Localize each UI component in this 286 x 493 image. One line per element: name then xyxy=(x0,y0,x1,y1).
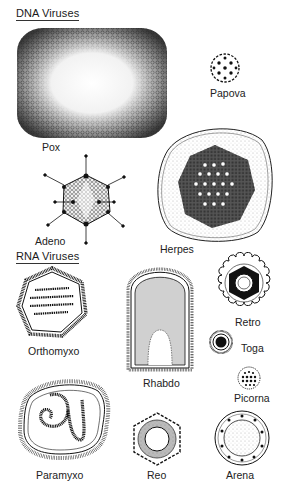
toga-label: Toga xyxy=(241,342,264,354)
herpes-label: Herpes xyxy=(160,243,194,255)
retro-virus-drawing xyxy=(218,252,270,305)
arena-virus-drawing xyxy=(215,411,269,465)
rhabdo-label: Rhabdo xyxy=(143,377,180,389)
herpes-virus-drawing xyxy=(158,129,272,242)
papova-label: Papova xyxy=(210,87,246,99)
reo-virus-drawing xyxy=(134,413,180,465)
rna-viruses-heading: RNA Viruses xyxy=(16,250,79,264)
pox-virus-drawing xyxy=(17,28,167,138)
papova-virus-drawing xyxy=(211,54,239,82)
paramyxo-virus-drawing xyxy=(20,381,108,458)
orthomyxo-label: Orthomyxo xyxy=(28,345,79,357)
toga-virus-drawing xyxy=(210,331,232,353)
rhabdo-virus-drawing xyxy=(128,269,192,370)
retro-label: Retro xyxy=(235,316,261,328)
orthomyxo-virus-drawing xyxy=(18,268,86,336)
arena-label: Arena xyxy=(226,469,254,481)
dna-viruses-heading: DNA Viruses xyxy=(16,7,79,21)
pox-label: Pox xyxy=(42,141,60,153)
adeno-label: Adeno xyxy=(35,235,65,247)
picorna-virus-drawing xyxy=(238,367,260,389)
reo-label: Reo xyxy=(147,469,166,481)
paramyxo-label: Paramyxo xyxy=(36,469,83,481)
adeno-virus-drawing xyxy=(44,155,126,245)
picorna-label: Picorna xyxy=(234,392,270,404)
